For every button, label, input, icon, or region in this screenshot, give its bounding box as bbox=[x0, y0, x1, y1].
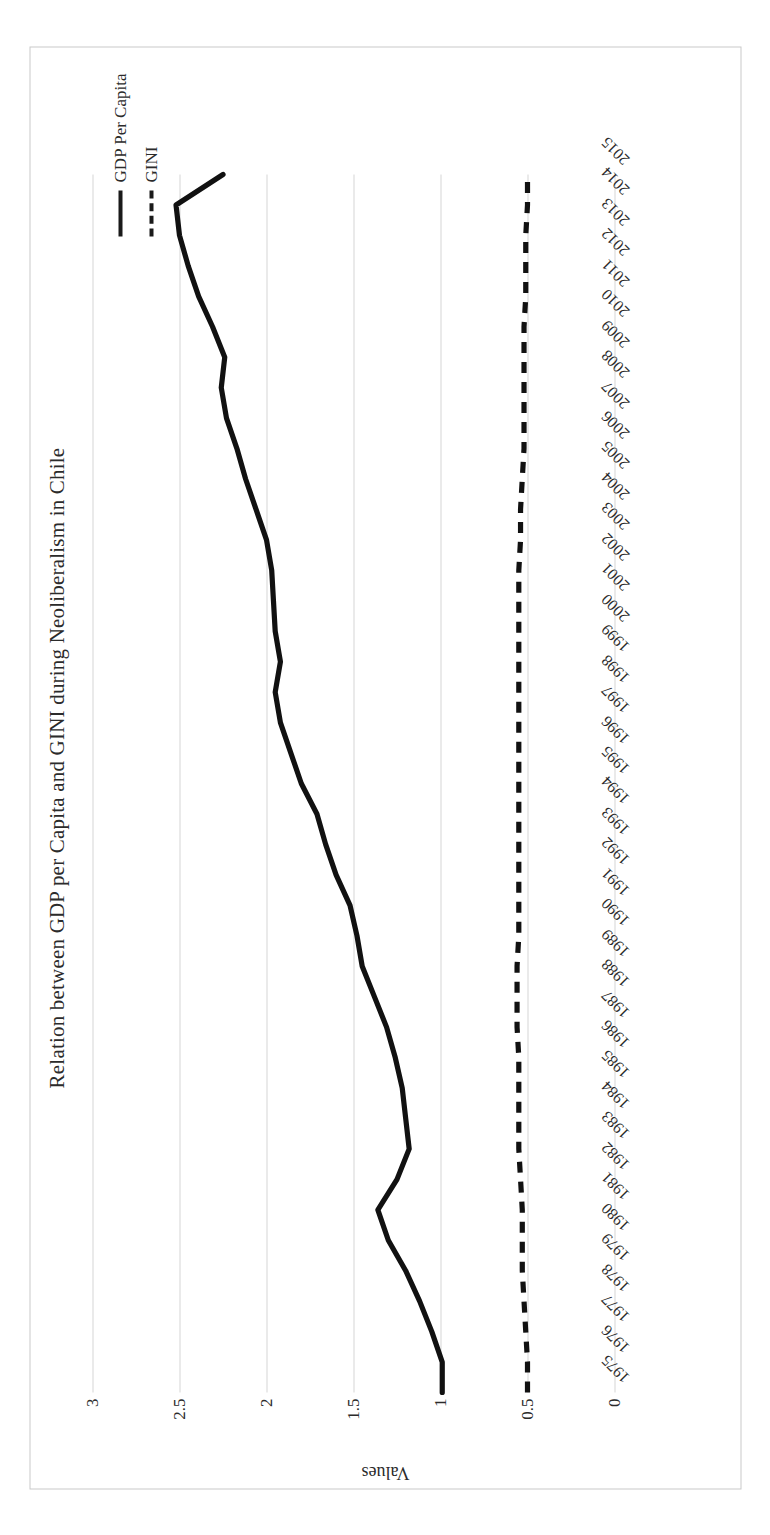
x-axis-tick-label: 2015 bbox=[597, 133, 632, 168]
y-axis-tick-label: 0.5 bbox=[517, 1398, 537, 1458]
y-axis-tick-label: 2 bbox=[256, 1398, 276, 1458]
plot-area: 00.511.522.53 bbox=[92, 174, 614, 1392]
y-axis-tick-label: 1.5 bbox=[343, 1398, 363, 1458]
y-axis-tick-label: 2.5 bbox=[169, 1398, 189, 1458]
y-axis-tick-label: 1 bbox=[430, 1398, 450, 1458]
chart-frame: Relation between GDP per Capita and GINI… bbox=[29, 46, 741, 1489]
y-axis-tick-label: 3 bbox=[82, 1398, 102, 1458]
chart-title: Relation between GDP per Capita and GINI… bbox=[44, 47, 69, 1488]
x-axis-tick-labels: 1975197619771978197919801981198219831984… bbox=[620, 174, 720, 1392]
plot-inner: 00.511.522.53 bbox=[92, 174, 614, 1392]
legend-label-gdp-per-capita: GDP Per Capita bbox=[110, 73, 130, 182]
rotated-chart-container: Relation between GDP per Capita and GINI… bbox=[29, 46, 741, 1489]
y-axis-tick-label: 0 bbox=[604, 1398, 624, 1458]
y-axis-title: Values bbox=[325, 1462, 445, 1483]
series-line-gdp-per-capita bbox=[176, 174, 442, 1392]
scanned-page: Relation between GDP per Capita and GINI… bbox=[0, 0, 770, 1535]
series-line-gini bbox=[517, 174, 527, 1392]
series-svg bbox=[92, 174, 614, 1392]
